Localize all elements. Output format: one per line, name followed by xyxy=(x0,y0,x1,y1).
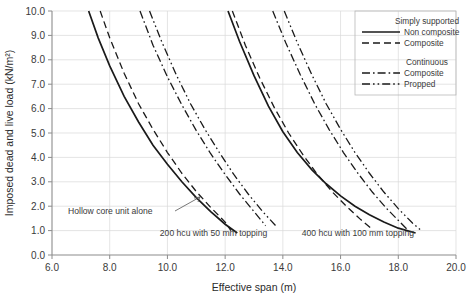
y-tick-label: 8.0 xyxy=(31,54,45,65)
effective-span-load-chart: 0.01.02.03.04.05.06.07.08.09.010.0 6.08.… xyxy=(0,0,469,297)
x-tick-label: 10.0 xyxy=(158,262,178,273)
chart-background xyxy=(0,0,469,297)
legend-label: Composite xyxy=(404,68,444,78)
y-tick-label: 10.0 xyxy=(26,6,46,17)
x-tick-label: 18.0 xyxy=(389,262,409,273)
y-tick-label: 3.0 xyxy=(31,176,45,187)
x-tick-label: 8.0 xyxy=(103,262,117,273)
legend-group-title: Continuous xyxy=(406,57,448,67)
x-tick-label: 14.0 xyxy=(273,262,293,273)
y-tick-label: 0.0 xyxy=(31,250,45,261)
annotation-200-hcu: 200 hcu with 50 mm topping xyxy=(160,228,268,238)
legend-group-title: Simply supported xyxy=(395,16,459,26)
y-tick-label: 6.0 xyxy=(31,103,45,114)
legend-label: Propped xyxy=(404,79,436,89)
annotation-400-hcu: 400 hcu with 100 mm topping xyxy=(302,228,414,238)
y-tick-label: 5.0 xyxy=(31,128,45,139)
y-axis-title: Imposed dead and live load (kN/m²) xyxy=(3,50,15,216)
annotation-hollow-core: Hollow core unit alone xyxy=(68,206,153,216)
x-tick-label: 20.0 xyxy=(446,262,466,273)
x-tick-label: 6.0 xyxy=(45,262,59,273)
y-tick-label: 2.0 xyxy=(31,201,45,212)
x-axis-title: Effective span (m) xyxy=(212,281,296,293)
y-tick-label: 1.0 xyxy=(31,225,45,236)
legend-label: Composite xyxy=(404,38,444,48)
legend-label: Non composite xyxy=(404,27,460,37)
y-tick-label: 7.0 xyxy=(31,79,45,90)
x-tick-label: 12.0 xyxy=(215,262,235,273)
y-tick-label: 4.0 xyxy=(31,152,45,163)
y-tick-label: 9.0 xyxy=(31,30,45,41)
x-tick-label: 16.0 xyxy=(331,262,351,273)
chart-container: 0.01.02.03.04.05.06.07.08.09.010.0 6.08.… xyxy=(0,0,469,297)
